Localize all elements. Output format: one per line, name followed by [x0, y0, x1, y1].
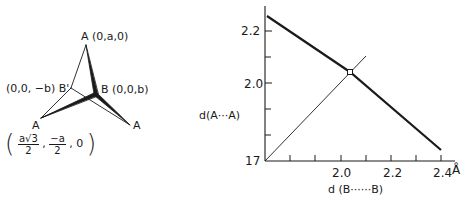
- fraction-x: a√32: [18, 133, 39, 156]
- label-b: B (0,0,b): [101, 84, 149, 95]
- series-thick-line: [267, 16, 441, 150]
- label-left-a: A: [32, 120, 40, 131]
- x-tick-label-2.4: 2.4: [433, 167, 452, 179]
- x-tick-label-2.0: 2.0: [332, 167, 351, 179]
- y-axis-label: d(A···A): [199, 110, 240, 121]
- label-top-a: A (0,a,0): [81, 31, 128, 42]
- intersection-marker: [348, 70, 353, 75]
- left-a-coordinates: ( a√32 , −a2 , 0 ): [5, 132, 96, 156]
- x-axis-unit: Å: [452, 164, 460, 176]
- label-b-prime: (0,0, −b) B': [6, 83, 69, 94]
- y-tick-label-2.2: 2.2: [241, 25, 260, 37]
- label-right-a: A: [133, 120, 141, 131]
- y-tick-label-1.7: 17: [245, 155, 260, 167]
- fraction-y: −a2: [49, 133, 66, 156]
- x-tick-label-2.2: 2.2: [383, 167, 402, 179]
- x-axis-label: d (B······B): [328, 184, 383, 195]
- y-tick-label-2.0: 2.0: [244, 78, 263, 90]
- series-thin-line: [265, 56, 366, 161]
